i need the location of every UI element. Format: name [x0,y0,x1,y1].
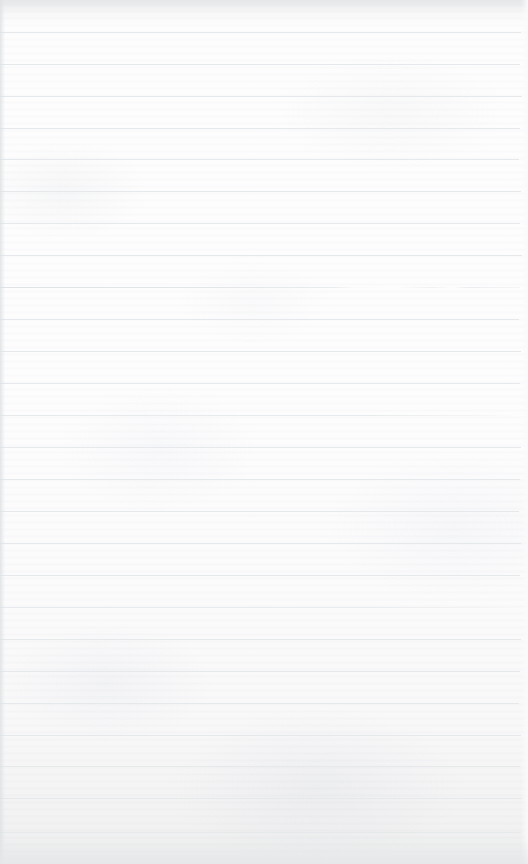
notebook-page [0,0,528,864]
ruled-line [0,607,518,608]
ruled-line [0,703,519,704]
ruled-line [0,159,519,160]
ruled-line [0,255,522,256]
ruled-line [0,128,520,129]
ruled-line [0,383,520,384]
ruled-line [0,575,520,576]
ruled-line [0,671,520,672]
ruled-line [0,479,520,480]
ruled-line [0,319,519,320]
ruled-line [0,32,521,33]
ruled-line [0,64,520,65]
ruled-line [0,96,522,97]
ruled-line [0,287,520,288]
ruled-line [0,415,518,416]
ruled-line [0,798,522,799]
ruled-line [0,639,521,640]
ruled-line [0,191,521,192]
ruled-line [0,447,521,448]
ruled-line [0,735,521,736]
ruled-line [0,832,521,833]
ruled-line [0,351,521,352]
ruled-line [0,543,521,544]
ruled-line [0,223,520,224]
ruled-lines-group [0,0,528,864]
ruled-line [0,511,519,512]
ruled-line [0,766,520,767]
